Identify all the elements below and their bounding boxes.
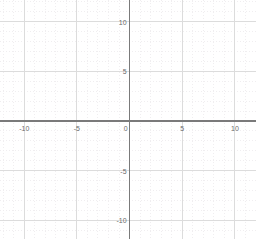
minor-gridlines-horizontal <box>0 2 256 230</box>
y-tick-label: -10 <box>116 217 126 224</box>
x-tick-label: 10 <box>231 125 239 132</box>
x-tick-label: -5 <box>74 125 80 132</box>
y-tick-label: -5 <box>120 167 126 174</box>
y-tick-label: 5 <box>123 68 127 75</box>
grid-and-axes <box>0 0 256 239</box>
coordinate-plane: -10-50510 105-5-10 <box>0 0 256 239</box>
x-tick-label: 5 <box>180 125 184 132</box>
x-tick-label: 0 <box>124 125 128 132</box>
y-tick-label: 10 <box>119 18 127 25</box>
x-tick-label: -10 <box>19 125 29 132</box>
